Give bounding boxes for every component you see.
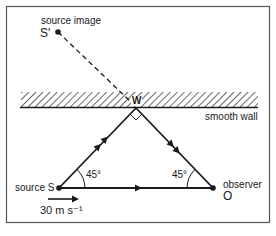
angle-arc-observer: [187, 170, 195, 189]
source-image-symbol: S′: [40, 27, 50, 39]
angle-source-label: 45°: [86, 170, 101, 180]
observer-dot: [210, 185, 216, 191]
velocity-label: 30 m s⁻¹: [40, 205, 83, 216]
source-dot: [56, 185, 62, 191]
observer-symbol: O: [223, 190, 232, 202]
source-label: source S: [15, 183, 54, 193]
smooth-wall-label: smooth wall: [205, 112, 258, 122]
source-image-label: source image: [41, 16, 101, 26]
wall-point-label: W: [131, 96, 142, 106]
right-angle-marker: [130, 114, 142, 120]
angle-arc-source: [77, 170, 85, 189]
source-image-dot: [55, 29, 61, 35]
arrowhead-icon: [135, 185, 142, 192]
velocity-arrowhead-icon: [72, 196, 79, 203]
angle-observer-label: 45°: [172, 170, 187, 180]
